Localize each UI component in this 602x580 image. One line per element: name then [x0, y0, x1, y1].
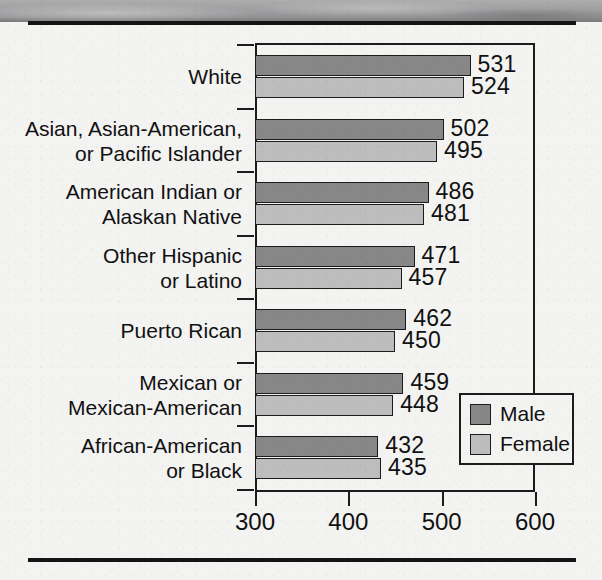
bar-female	[255, 458, 381, 479]
category-label: African-American or Black	[0, 433, 242, 483]
bar-male	[255, 119, 444, 140]
y-axis-tick	[237, 44, 254, 46]
y-axis-tick	[237, 425, 254, 427]
category-label: Asian, Asian-American, or Pacific Island…	[0, 116, 242, 166]
horizontal-rule-bottom	[28, 558, 576, 562]
legend-swatch-male	[470, 404, 491, 425]
bar-value-female: 448	[400, 391, 439, 418]
bar-female	[255, 77, 464, 98]
x-axis-tick	[255, 492, 257, 506]
category-label: White	[0, 64, 242, 89]
x-axis-tick	[442, 492, 444, 506]
bar-female	[255, 268, 402, 289]
bar-group: 462450Puerto Rican	[0, 305, 602, 369]
bar-value-female: 495	[444, 137, 483, 164]
x-axis-tick	[535, 492, 537, 506]
bar-value-female: 450	[402, 327, 441, 354]
y-axis-tick	[237, 235, 254, 237]
category-label: Puerto Rican	[0, 318, 242, 343]
legend-label-male: Male	[500, 402, 546, 426]
bar-value-female: 481	[431, 200, 470, 227]
x-axis-tick	[348, 492, 350, 506]
x-axis-tick-label: 300	[215, 508, 295, 536]
bar-female	[255, 141, 437, 162]
bar-group: 471457Other Hispanic or Latino	[0, 242, 602, 306]
legend-label-female: Female	[500, 432, 570, 456]
y-axis-tick	[237, 489, 254, 491]
legend-swatch-female	[470, 434, 491, 455]
x-axis-tick-label: 500	[402, 508, 482, 536]
chart-legend: Male Female	[459, 393, 574, 465]
bar-male	[255, 373, 403, 394]
bar-female	[255, 204, 424, 225]
bar-male	[255, 246, 415, 267]
bar-male	[255, 436, 378, 457]
bar-group: 531524White	[0, 51, 602, 115]
bar-male	[255, 182, 429, 203]
y-axis-tick	[237, 362, 254, 364]
bar-female	[255, 331, 395, 352]
legend-item-female: Female	[470, 432, 570, 456]
bar-value-female: 524	[471, 73, 510, 100]
x-axis-tick-label: 400	[308, 508, 388, 536]
bar-female	[255, 395, 393, 416]
category-label: Other Hispanic or Latino	[0, 243, 242, 293]
bar-group: 486481American Indian or Alaskan Native	[0, 178, 602, 242]
bar-value-female: 435	[388, 454, 427, 481]
grouped-bar-chart: 531524White502495Asian, Asian-American, …	[0, 0, 602, 580]
bar-value-female: 457	[409, 264, 448, 291]
bar-group: 502495Asian, Asian-American, or Pacific …	[0, 115, 602, 179]
y-axis-tick	[237, 171, 254, 173]
legend-item-male: Male	[470, 402, 546, 426]
y-axis-tick	[237, 108, 254, 110]
y-axis-tick	[237, 298, 254, 300]
category-label: American Indian or Alaskan Native	[0, 179, 242, 229]
bar-male	[255, 309, 406, 330]
x-axis-tick-label: 600	[495, 508, 575, 536]
category-label: Mexican or Mexican-American	[0, 370, 242, 420]
bar-male	[255, 55, 471, 76]
